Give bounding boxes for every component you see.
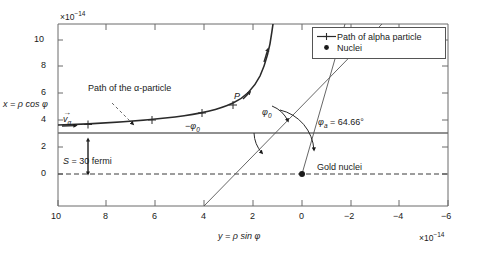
x-tick-label-8: 8 bbox=[103, 212, 108, 221]
legend-label-path-alpha: Path of alpha particle bbox=[337, 32, 422, 42]
path-alpha-particle-label: Path of the α-particle bbox=[88, 84, 171, 93]
x-tick-label-minus6: −6 bbox=[441, 212, 451, 221]
legend-item-nuclei: Nuclei bbox=[317, 42, 440, 53]
legend-line-plus-icon bbox=[317, 32, 337, 41]
gold-nuclei-label: Gold nuclei bbox=[317, 163, 362, 172]
impact-parameter-label: S = 30 fermi bbox=[63, 157, 112, 166]
x-tick-label-2: 2 bbox=[250, 212, 255, 221]
alpha-particle-path bbox=[58, 24, 273, 125]
x-axis-exponent: ×10−14 bbox=[419, 231, 444, 243]
y-axis-ticks bbox=[58, 40, 63, 174]
x-tick-label-0: 0 bbox=[299, 212, 304, 221]
y-axis-label: x = ρ cos φ bbox=[3, 100, 48, 109]
y-tick-label-4: 4 bbox=[41, 115, 46, 124]
x-tick-label-minus2: −2 bbox=[344, 212, 354, 221]
figure-root: ×10−14 10 8 6 4 2 0 x = ρ cos φ 10 8 6 4… bbox=[0, 0, 488, 261]
legend-dot-icon bbox=[317, 43, 337, 52]
y-tick-label-2: 2 bbox=[41, 142, 46, 151]
path-markers bbox=[84, 101, 237, 129]
x-tick-label-4: 4 bbox=[201, 212, 206, 221]
phi-a-value-label: φa = 64.66° bbox=[318, 118, 364, 129]
legend: Path of alpha particle Nuclei bbox=[312, 27, 446, 59]
phi-zero-label: φ0 bbox=[262, 108, 272, 119]
y-tick-label-10: 10 bbox=[34, 35, 44, 44]
x-axis-label: y = ρ sin φ bbox=[218, 232, 260, 241]
y-tick-label-6: 6 bbox=[41, 88, 46, 97]
y-axis-exponent: ×10−14 bbox=[60, 10, 85, 22]
negative-phi-zero-label: −φ0 bbox=[185, 122, 200, 133]
x-tick-label-10: 10 bbox=[51, 212, 61, 221]
y-tick-label-0: 0 bbox=[41, 169, 46, 178]
legend-item-path-alpha: Path of alpha particle bbox=[317, 31, 440, 42]
gold-nucleus-dot bbox=[299, 171, 305, 177]
legend-label-nuclei: Nuclei bbox=[337, 43, 362, 53]
velocity-vector-label: → vα bbox=[63, 115, 71, 126]
x-tick-label-6: 6 bbox=[152, 212, 157, 221]
x-axis-ticks bbox=[58, 200, 448, 206]
x-tick-label-minus4: −4 bbox=[393, 212, 403, 221]
y-tick-label-8: 8 bbox=[41, 61, 46, 70]
path-direction-arrows bbox=[243, 49, 268, 99]
point-p-label: P bbox=[234, 92, 240, 101]
